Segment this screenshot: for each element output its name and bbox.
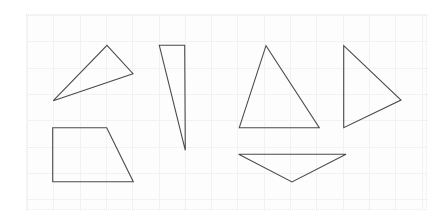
shape-figure-canvas bbox=[0, 0, 438, 221]
obtuse-triangle-upper-left bbox=[53, 45, 133, 100]
right-triangle-pointing-right bbox=[344, 46, 401, 128]
isosceles-triangle-upright bbox=[239, 46, 319, 128]
shape-drawing-surface bbox=[27, 15, 428, 211]
shape-grid-panel bbox=[26, 14, 427, 210]
flat-triangle-pointing-down bbox=[239, 154, 346, 182]
thin-sliver-triangle bbox=[159, 45, 185, 150]
